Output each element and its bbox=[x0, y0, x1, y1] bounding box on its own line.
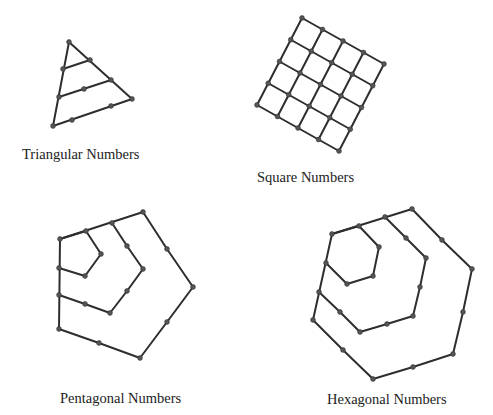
vertex-dot bbox=[320, 27, 325, 32]
vertex-dot bbox=[61, 67, 66, 72]
vertex-dot bbox=[110, 221, 115, 226]
edge-line bbox=[313, 209, 472, 379]
vertex-dot bbox=[461, 310, 466, 315]
vertex-dot bbox=[341, 39, 346, 44]
vertex-dot bbox=[82, 87, 87, 92]
edge-line bbox=[59, 223, 143, 313]
vertex-dot bbox=[288, 37, 293, 42]
vertex-dot bbox=[371, 274, 376, 279]
vertex-dot bbox=[451, 352, 456, 357]
vertex-dot bbox=[358, 330, 363, 335]
vertex-dot bbox=[348, 127, 353, 132]
vertex-dot bbox=[377, 245, 382, 250]
vertex-dot bbox=[370, 83, 375, 88]
vertex-dot bbox=[57, 327, 62, 332]
vertex-dot bbox=[109, 78, 114, 83]
vertex-dot bbox=[411, 365, 416, 370]
vertex-dot bbox=[311, 318, 316, 323]
vertex-dot bbox=[411, 314, 416, 319]
hexagonal-numbers-label: Hexagonal Numbers bbox=[327, 391, 447, 407]
vertex-dot bbox=[51, 124, 56, 129]
vertex-dot bbox=[58, 237, 63, 242]
vertex-dot bbox=[359, 105, 364, 110]
vertex-dot bbox=[371, 377, 376, 382]
vertex-dot bbox=[266, 81, 271, 86]
vertex-dot bbox=[324, 261, 329, 266]
vertex-dot bbox=[317, 290, 322, 295]
vertex-dot bbox=[141, 267, 146, 272]
vertex-dot bbox=[307, 104, 312, 109]
vertex-dot bbox=[138, 356, 143, 361]
pentagonal-numbers-figure bbox=[57, 210, 196, 361]
vertex-dot bbox=[165, 320, 170, 325]
vertex-dot bbox=[339, 94, 344, 99]
vertex-dot bbox=[275, 114, 280, 119]
vertex-dot bbox=[67, 40, 72, 45]
vertex-dot bbox=[470, 267, 475, 272]
vertex-dot bbox=[57, 95, 62, 100]
vertex-dot bbox=[255, 103, 260, 108]
vertex-dot bbox=[418, 285, 423, 290]
vertex-dot bbox=[385, 322, 390, 327]
vertex-dot bbox=[125, 289, 130, 294]
vertex-dot bbox=[309, 49, 314, 54]
vertex-dot bbox=[108, 311, 113, 316]
vertex-dot bbox=[125, 244, 130, 249]
vertex-dot bbox=[404, 236, 409, 241]
vertex-dot bbox=[84, 229, 89, 234]
vertex-dot bbox=[330, 232, 335, 237]
vertex-dot bbox=[350, 72, 355, 77]
vertex-dot bbox=[337, 149, 342, 154]
edge-line bbox=[63, 60, 90, 69]
pentagonal-numbers-label: Pentagonal Numbers bbox=[60, 390, 182, 406]
vertex-dot bbox=[357, 224, 362, 229]
vertex-dot bbox=[277, 59, 282, 64]
figurate-numbers-diagram: Triangular Numbers Square Numbers Pentag… bbox=[0, 0, 493, 415]
vertex-dot bbox=[361, 50, 366, 55]
vertex-dot bbox=[318, 82, 323, 87]
vertex-dot bbox=[57, 293, 62, 298]
vertex-dot bbox=[88, 58, 93, 63]
vertex-dot bbox=[298, 71, 303, 76]
triangular-numbers-label: Triangular Numbers bbox=[22, 146, 140, 162]
hexagonal-numbers-figure bbox=[311, 207, 475, 382]
vertex-dot bbox=[338, 310, 343, 315]
vertex-dot bbox=[165, 247, 170, 252]
vertex-dot bbox=[300, 16, 305, 21]
vertex-dot bbox=[329, 60, 334, 65]
edge-line bbox=[53, 42, 132, 126]
vertex-dot bbox=[345, 282, 350, 287]
vertex-dot bbox=[296, 126, 301, 131]
vertex-dot bbox=[83, 274, 88, 279]
vertex-dot bbox=[440, 238, 445, 243]
vertex-dot bbox=[424, 256, 429, 261]
vertex-dot bbox=[70, 118, 75, 123]
vertex-dot bbox=[316, 137, 321, 142]
vertex-dot bbox=[383, 215, 388, 220]
vertex-dot bbox=[130, 97, 135, 102]
square-numbers-figure bbox=[255, 16, 387, 154]
square-numbers-label: Square Numbers bbox=[257, 169, 354, 185]
vertex-dot bbox=[341, 348, 346, 353]
vertex-dot bbox=[97, 341, 102, 346]
vertex-dot bbox=[57, 266, 62, 271]
vertex-dot bbox=[286, 92, 291, 97]
vertex-dot bbox=[382, 62, 387, 67]
vertex-dot bbox=[191, 285, 196, 290]
vertex-dot bbox=[83, 302, 88, 307]
vertex-dot bbox=[141, 210, 146, 215]
triangular-numbers-figure bbox=[51, 40, 135, 129]
vertex-dot bbox=[410, 207, 415, 212]
vertex-dot bbox=[327, 115, 332, 120]
vertex-dot bbox=[99, 252, 104, 257]
vertex-dot bbox=[109, 104, 114, 109]
